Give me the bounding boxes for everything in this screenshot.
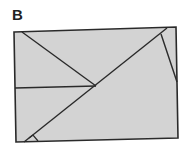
geometry-diagram: [0, 0, 190, 146]
